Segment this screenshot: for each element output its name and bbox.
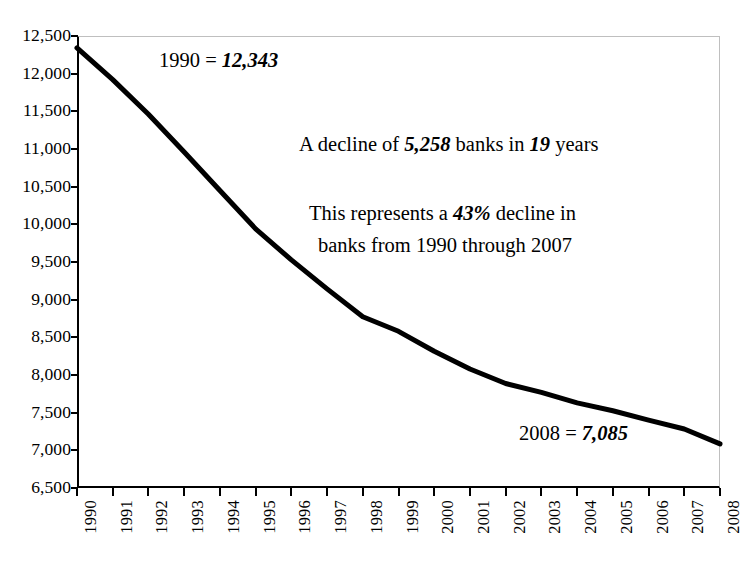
x-axis-tick xyxy=(112,488,114,496)
x-axis-tick xyxy=(362,488,364,496)
x-axis-tick-label: 1995 xyxy=(262,500,279,534)
annotation-decline-suffix: years xyxy=(550,133,598,155)
y-axis-tick xyxy=(71,336,78,338)
x-axis-tick-label: 1990 xyxy=(83,500,100,534)
x-axis-tick-label: 2000 xyxy=(440,500,457,534)
y-axis-tick xyxy=(71,299,78,301)
y-axis-tick-label: 8,000 xyxy=(0,366,71,384)
x-axis-tick xyxy=(469,488,471,496)
y-axis-tick-label: 12,500 xyxy=(0,27,71,45)
x-axis-tick-label: 2008 xyxy=(726,500,743,534)
x-axis-tick xyxy=(648,488,650,496)
x-axis-tick-label: 1998 xyxy=(369,500,386,534)
y-axis-tick xyxy=(71,223,78,225)
x-axis-tick-label: 2003 xyxy=(547,500,564,534)
y-axis-labels: 6,5007,0007,5008,0008,5009,0009,50010,00… xyxy=(0,36,71,488)
y-axis-tick-label: 11,000 xyxy=(0,140,71,158)
y-axis-tick-label: 7,500 xyxy=(0,404,71,422)
x-axis-tick-label: 1997 xyxy=(333,500,350,534)
x-axis-tick-label: 2004 xyxy=(583,500,600,534)
x-axis-tick-label: 2006 xyxy=(655,500,672,534)
annotation-end-value: 2008 = 7,085 xyxy=(519,420,628,448)
y-axis-tick-label: 10,000 xyxy=(0,216,71,234)
x-axis-tick xyxy=(326,488,328,496)
y-axis-tick-label: 11,500 xyxy=(0,103,71,121)
x-axis-tick xyxy=(76,488,78,496)
y-axis-tick xyxy=(71,261,78,263)
x-axis-tick-label: 1992 xyxy=(154,500,171,534)
x-axis-tick xyxy=(290,488,292,496)
y-axis-tick xyxy=(71,449,78,451)
x-axis-tick-label: 1991 xyxy=(119,500,136,534)
bank-count-line-chart: 6,5007,0007,5008,0008,5009,0009,50010,00… xyxy=(0,0,749,566)
x-axis-tick xyxy=(612,488,614,496)
y-axis-tick-label: 9,000 xyxy=(0,291,71,309)
y-axis-tick-label: 8,500 xyxy=(0,329,71,347)
x-axis-tick-label: 2005 xyxy=(619,500,636,534)
x-axis-tick xyxy=(147,488,149,496)
annotation-decline-count: 5,258 xyxy=(404,133,450,155)
annotation-start-value: 1990 = 12,343 xyxy=(159,47,278,75)
annotation-decline: A decline of 5,258 banks in 19 years xyxy=(299,131,599,159)
annotation-percent-suffix: decline in xyxy=(491,202,576,224)
x-axis-tick xyxy=(576,488,578,496)
x-axis-tick xyxy=(255,488,257,496)
y-axis-tick xyxy=(71,73,78,75)
annotation-start-prefix: 1990 = xyxy=(159,49,222,71)
x-axis-tick-label: 1999 xyxy=(405,500,422,534)
x-axis-tick-label: 1994 xyxy=(226,500,243,534)
annotation-end-prefix: 2008 = xyxy=(519,422,582,444)
x-axis-tick xyxy=(540,488,542,496)
y-axis-tick xyxy=(71,110,78,112)
y-axis-tick-label: 12,000 xyxy=(0,65,71,83)
annotation-start-number: 12,343 xyxy=(222,49,278,71)
y-axis-tick-label: 7,000 xyxy=(0,442,71,460)
x-axis-tick xyxy=(683,488,685,496)
y-axis-tick xyxy=(71,186,78,188)
annotation-percent-line1: This represents a 43% decline in xyxy=(309,200,576,228)
annotation-percent-prefix: This represents a xyxy=(309,202,453,224)
y-axis-tick-label: 6,500 xyxy=(0,479,71,497)
x-axis-tick xyxy=(433,488,435,496)
y-axis-tick xyxy=(71,374,78,376)
annotation-percent-line2: banks from 1990 through 2007 xyxy=(318,232,572,260)
y-axis-tick xyxy=(71,412,78,414)
x-axis-tick-label: 2001 xyxy=(476,500,493,534)
x-axis-tick-label: 2002 xyxy=(512,500,529,534)
annotation-decline-years: 19 xyxy=(530,133,551,155)
x-axis-tick xyxy=(183,488,185,496)
annotation-decline-prefix: A decline of xyxy=(299,133,404,155)
x-axis-tick xyxy=(219,488,221,496)
y-axis-tick-label: 10,500 xyxy=(0,178,71,196)
x-axis-tick-label: 1996 xyxy=(297,500,314,534)
annotation-decline-middle: banks in xyxy=(450,133,529,155)
y-axis-tick-label: 9,500 xyxy=(0,253,71,271)
annotation-end-number: 7,085 xyxy=(582,422,628,444)
y-axis-tick xyxy=(71,35,78,37)
x-axis-tick xyxy=(398,488,400,496)
y-axis-tick xyxy=(71,148,78,150)
x-axis-tick-label: 1993 xyxy=(190,500,207,534)
x-axis-tick xyxy=(505,488,507,496)
x-axis-tick-label: 2007 xyxy=(690,500,707,534)
annotation-percent-value: 43% xyxy=(453,202,491,224)
x-axis-tick xyxy=(719,488,721,496)
